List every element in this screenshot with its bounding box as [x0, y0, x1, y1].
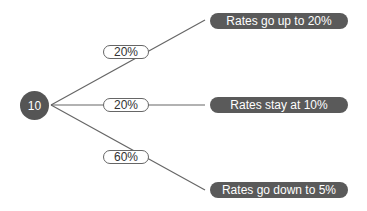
- outcome-down: Rates go down to 5%: [210, 182, 348, 198]
- probability-label-up: 20%: [103, 45, 149, 59]
- root-node: 10: [20, 91, 49, 120]
- probability-label-stay: 20%: [103, 98, 149, 112]
- root-value: 10: [28, 99, 41, 113]
- outcome-up: Rates go up to 20%: [210, 13, 348, 29]
- probability-label-down: 60%: [103, 150, 149, 164]
- outcome-stay: Rates stay at 10%: [210, 97, 348, 113]
